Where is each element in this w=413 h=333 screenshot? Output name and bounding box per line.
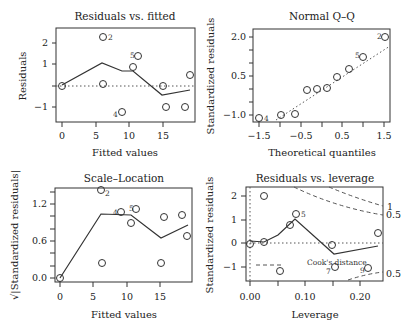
x-axis: 0 5 10 15: [57, 282, 166, 302]
smoother-line: [62, 63, 190, 95]
panel-title: Residuals vs. fitted: [74, 10, 175, 22]
diagnostic-plots-figure: Residuals vs. fitted 2 1 −1 Residuals 0 …: [0, 0, 413, 333]
y-axis: 1.2 0.6 0.0: [32, 192, 55, 283]
point-label: 7: [326, 267, 331, 276]
x-tick-label: 1.5: [376, 130, 391, 141]
y-tick-label: 1: [42, 58, 48, 69]
y-axis-label: Standardized residuals: [205, 18, 216, 135]
point-label: 2: [377, 32, 382, 41]
x-axis-label: Fitted values: [91, 309, 157, 320]
y-axis: 2 1 −1: [34, 37, 56, 112]
x-axis: 0.00 0.10 0.20: [239, 281, 370, 302]
x-tick-label: 5: [90, 291, 96, 302]
y-tick-label: 0.0: [32, 272, 47, 283]
point-label: 4: [113, 110, 118, 119]
y-tick-label: 0.5: [231, 70, 246, 81]
x-tick-label: 15: [154, 291, 166, 302]
point-label: 5: [355, 51, 360, 60]
x-tick-label: 0: [57, 291, 63, 302]
panel-title: Normal Q–Q: [289, 10, 355, 22]
y-axis-label: Residuals: [17, 52, 28, 101]
smoother-line: [250, 219, 378, 254]
plot-frame: [55, 188, 192, 282]
y-tick-label: −1.0: [223, 109, 246, 120]
panel-residuals-vs-fitted: Residuals vs. fitted 2 1 −1 Residuals 0 …: [17, 10, 195, 158]
cooks-distance-annotation: Cook's distance: [307, 258, 367, 267]
x-tick-label: −0.5: [289, 130, 312, 141]
y-axis-label: √|Standardized residuals|: [9, 170, 21, 300]
panel-scale-location: Scale–Location 1.2 0.6 0.0 √|Standardize…: [9, 170, 192, 320]
x-axis-label: Fitted values: [92, 147, 158, 158]
y-tick-label: 0: [231, 237, 237, 248]
y-tick-label: −1: [34, 101, 48, 112]
smoother-line: [60, 214, 188, 278]
y-axis-label: Standardized residuals: [204, 177, 215, 294]
y-axis: 2.0 0.5 −1.0: [223, 31, 253, 120]
x-tick-label: 0.00: [239, 291, 260, 302]
point-label: 5: [301, 210, 306, 219]
data-points: [59, 34, 194, 116]
panel-residuals-vs-leverage: Residuals vs. leverage 2 1 0 −1 Standard…: [204, 172, 401, 320]
y-tick-label: 2: [231, 190, 237, 201]
panel-normal-qq: Normal Q–Q 2.0 0.5 −1.0 Standardized res…: [205, 10, 392, 158]
point-label: 2: [105, 189, 110, 198]
y-tick-label: 1: [231, 214, 237, 225]
x-axis: −1.5 −0.5 0.5 1.5: [247, 122, 391, 141]
x-tick-label: 5: [93, 130, 99, 141]
contour-label: 0.5: [386, 209, 401, 220]
x-tick-label: 15: [157, 130, 169, 141]
panel-title: Scale–Location: [84, 172, 164, 184]
y-tick-label: 0.6: [32, 235, 47, 246]
point-label: 4: [113, 208, 118, 217]
y-tick-label: 2.0: [231, 31, 246, 42]
data-points: [256, 34, 389, 122]
contour-label: 0.5: [386, 268, 401, 279]
qq-reference-line: [276, 46, 390, 120]
y-tick-label: 2: [42, 37, 48, 48]
point-label: 9: [360, 266, 365, 275]
plot-frame: [253, 29, 390, 122]
point-label: 2: [108, 33, 113, 42]
panel-title: Residuals vs. leverage: [256, 172, 375, 184]
point-label: 4: [264, 114, 269, 123]
x-tick-label: 0: [59, 130, 65, 141]
x-tick-label: 10: [121, 291, 133, 302]
y-tick-label: −1: [223, 261, 237, 272]
x-axis-label: Theoretical quantiles: [268, 147, 376, 158]
x-tick-label: 10: [123, 130, 135, 141]
plot-frame: [56, 28, 195, 122]
y-axis: 2 1 0 −1: [223, 190, 246, 272]
x-axis-label: Leverage: [291, 309, 338, 320]
y-tick-label: 1.2: [32, 198, 47, 209]
point-label: 5: [129, 204, 134, 213]
x-tick-label: −1.5: [247, 130, 270, 141]
x-tick-label: 0.5: [334, 130, 349, 141]
point-label: 5: [130, 51, 135, 60]
x-tick-label: 0.20: [349, 291, 370, 302]
x-tick-label: 0.10: [294, 291, 315, 302]
x-axis: 0 5 10 15: [59, 122, 169, 141]
